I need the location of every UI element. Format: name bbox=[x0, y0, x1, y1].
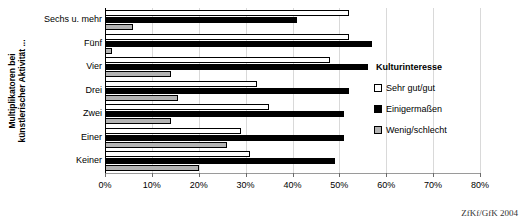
y-axis-category-label: Fünf bbox=[32, 38, 102, 48]
x-axis-tick bbox=[339, 173, 340, 177]
bar bbox=[105, 34, 349, 40]
bar bbox=[105, 135, 344, 141]
bar bbox=[105, 165, 199, 171]
x-axis-tick-label: 40% bbox=[273, 180, 313, 190]
x-axis-tick-label: 30% bbox=[226, 180, 266, 190]
legend-item-label: Wenig/schlecht bbox=[386, 125, 447, 135]
bar bbox=[105, 48, 112, 54]
legend-item-label: Einigermaßen bbox=[386, 104, 442, 114]
legend-item[interactable]: Einigermaßen bbox=[374, 104, 524, 114]
y-axis-title: Multiplikatoren bei künstlerischer Aktiv… bbox=[7, 11, 27, 171]
source-credit: ZfKf/GfK 2004 bbox=[461, 208, 518, 218]
bar-group bbox=[105, 151, 480, 173]
x-axis-tick-label: 70% bbox=[413, 180, 453, 190]
legend-swatch-icon bbox=[374, 84, 382, 92]
x-axis-tick bbox=[105, 173, 106, 177]
bar bbox=[105, 142, 227, 148]
legend: Kulturinteresse Sehr gut/gutEinigermaßen… bbox=[374, 62, 524, 146]
x-axis-tick-label: 50% bbox=[319, 180, 359, 190]
bar bbox=[105, 88, 349, 94]
bar bbox=[105, 64, 368, 70]
bar bbox=[105, 10, 349, 16]
y-axis-title-wrapper: Multiplikatoren bei künstlerischer Aktiv… bbox=[0, 18, 34, 178]
bar bbox=[105, 24, 133, 30]
bar bbox=[105, 104, 269, 110]
x-axis-tick-label: 20% bbox=[179, 180, 219, 190]
legend-swatch-icon bbox=[374, 105, 382, 113]
chart-container: Multiplikatoren bei künstlerischer Aktiv… bbox=[0, 0, 524, 220]
bar-group bbox=[105, 10, 480, 32]
x-axis-tick-label: 0% bbox=[85, 180, 125, 190]
y-axis-category-label: Drei bbox=[32, 85, 102, 95]
bar bbox=[105, 71, 171, 77]
x-axis-tick bbox=[293, 173, 294, 177]
y-axis-category-label: Vier bbox=[32, 61, 102, 71]
bar-group bbox=[105, 34, 480, 56]
y-axis-category-label: Zwei bbox=[32, 108, 102, 118]
x-axis-tick bbox=[433, 173, 434, 177]
bar bbox=[105, 95, 178, 101]
bar bbox=[105, 158, 335, 164]
bar bbox=[105, 118, 171, 124]
y-axis-category-label: Keiner bbox=[32, 155, 102, 165]
y-axis-category-label: Einer bbox=[32, 132, 102, 142]
x-axis-tick-label: 10% bbox=[132, 180, 172, 190]
bar bbox=[105, 111, 344, 117]
x-axis-tick bbox=[246, 173, 247, 177]
legend-entries: Sehr gut/gutEinigermaßenWenig/schlecht bbox=[374, 83, 524, 135]
legend-swatch-icon bbox=[374, 126, 382, 134]
x-axis-tick-label: 60% bbox=[366, 180, 406, 190]
legend-item-label: Sehr gut/gut bbox=[386, 83, 435, 93]
x-axis-tick bbox=[152, 173, 153, 177]
bar bbox=[105, 81, 257, 87]
bar bbox=[105, 41, 372, 47]
legend-title: Kulturinteresse bbox=[376, 62, 524, 72]
x-axis-tick bbox=[386, 173, 387, 177]
bar bbox=[105, 128, 241, 134]
x-axis-tick bbox=[480, 173, 481, 177]
x-axis-tick bbox=[199, 173, 200, 177]
y-axis-category-labels: Sechs u. mehrFünfVierDreiZweiEinerKeiner bbox=[32, 8, 102, 173]
y-axis-category-label: Sechs u. mehr bbox=[32, 14, 102, 24]
bar bbox=[105, 57, 330, 63]
x-axis-tick-label: 80% bbox=[460, 180, 500, 190]
legend-item[interactable]: Wenig/schlecht bbox=[374, 125, 524, 135]
bar bbox=[105, 17, 297, 23]
legend-item[interactable]: Sehr gut/gut bbox=[374, 83, 524, 93]
bar bbox=[105, 151, 250, 157]
